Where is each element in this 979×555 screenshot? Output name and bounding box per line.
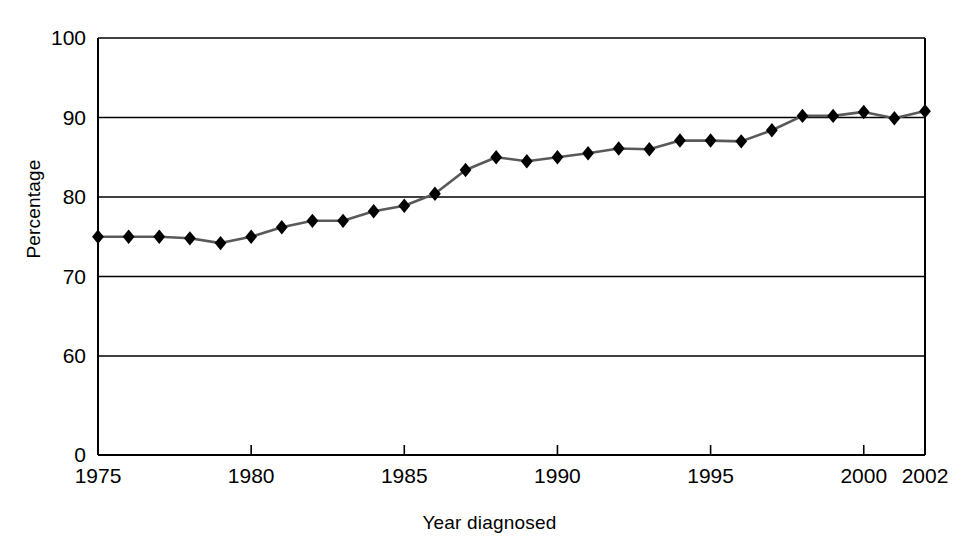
y-axis-title: Percentage bbox=[23, 129, 45, 289]
data-point-1978 bbox=[184, 231, 196, 245]
data-point-1984 bbox=[368, 204, 380, 218]
data-point-1979 bbox=[215, 236, 227, 250]
x-tick-label-1985: 1985 bbox=[381, 464, 428, 488]
data-point-1976 bbox=[123, 230, 135, 244]
data-point-1995 bbox=[705, 133, 717, 147]
x-axis-tick-marks bbox=[251, 445, 864, 455]
data-point-2001 bbox=[888, 111, 900, 125]
data-point-1975 bbox=[92, 230, 104, 244]
data-point-1991 bbox=[582, 146, 594, 160]
plot-area bbox=[0, 0, 979, 555]
data-point-1977 bbox=[153, 230, 165, 244]
data-point-1999 bbox=[827, 109, 839, 123]
data-point-1992 bbox=[613, 141, 625, 155]
data-point-1981 bbox=[276, 220, 288, 234]
y-tick-label-80: 80 bbox=[63, 185, 86, 209]
data-point-1997 bbox=[766, 123, 778, 137]
data-point-1989 bbox=[521, 154, 533, 168]
data-point-1986 bbox=[429, 187, 441, 201]
data-markers bbox=[92, 104, 931, 250]
data-point-1998 bbox=[797, 109, 809, 123]
x-tick-label-1990: 1990 bbox=[534, 464, 581, 488]
x-tick-label-1975: 1975 bbox=[75, 464, 122, 488]
y-tick-label-90: 90 bbox=[63, 106, 86, 130]
data-point-1996 bbox=[735, 134, 747, 148]
data-point-1994 bbox=[674, 133, 686, 147]
x-tick-label-2000: 2000 bbox=[840, 464, 887, 488]
data-point-1990 bbox=[552, 150, 564, 164]
data-point-1988 bbox=[490, 150, 502, 164]
data-point-1980 bbox=[245, 230, 257, 244]
data-point-1983 bbox=[337, 214, 349, 228]
x-axis-title: Year diagnosed bbox=[0, 512, 979, 534]
x-tick-label-1995: 1995 bbox=[687, 464, 734, 488]
chart-figure: Percentage Year diagnosed 060708090100 1… bbox=[0, 0, 979, 555]
data-point-1993 bbox=[643, 142, 655, 156]
y-tick-label-70: 70 bbox=[63, 265, 86, 289]
x-tick-label-1980: 1980 bbox=[228, 464, 275, 488]
y-tick-label-60: 60 bbox=[63, 344, 86, 368]
data-line-percentage bbox=[98, 111, 925, 243]
data-point-1982 bbox=[307, 214, 319, 228]
data-point-2002 bbox=[919, 104, 931, 118]
y-tick-label-100: 100 bbox=[51, 26, 86, 50]
x-tick-label-2002: 2002 bbox=[902, 464, 949, 488]
data-point-1985 bbox=[398, 199, 410, 213]
data-point-1987 bbox=[460, 163, 472, 177]
